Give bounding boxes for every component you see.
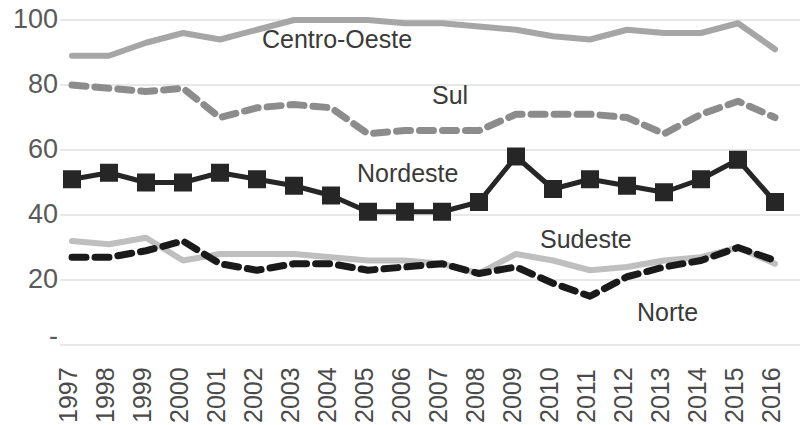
data-point-marker (766, 193, 784, 211)
series-sul (72, 85, 775, 134)
x-axis-tick-label: 2008 (463, 367, 488, 423)
data-point-marker (729, 151, 747, 169)
data-point-marker (396, 203, 414, 221)
x-axis-tick-label: 2000 (167, 367, 192, 423)
data-point-marker (433, 203, 451, 221)
data-point-marker (322, 187, 340, 205)
x-axis-tick-label: 2013 (648, 367, 673, 423)
data-point-marker (285, 177, 303, 195)
line-chart: -20406080100 199719981999200020012002200… (0, 0, 804, 425)
data-point-marker (100, 164, 118, 182)
y-axis-tick-label: 80 (28, 71, 58, 98)
y-axis-tick-label: 20 (28, 266, 58, 293)
x-axis-tick-label: 2003 (278, 367, 303, 423)
x-axis-tick-label: 2007 (426, 367, 451, 423)
data-point-marker (655, 183, 673, 201)
x-axis-tick-label: 1999 (130, 367, 155, 423)
data-point-marker (507, 148, 525, 166)
data-point-marker (63, 170, 81, 188)
x-axis-tick-label: 2001 (204, 367, 229, 423)
series-label-nordeste: Nordeste (357, 161, 458, 186)
x-axis-tick-label: 2006 (389, 367, 414, 423)
x-axis-tick-label: 2011 (574, 369, 599, 423)
y-axis-tick-label: - (49, 323, 58, 350)
series-label-sul: Sul (432, 83, 468, 108)
x-axis-labels: 1997199819992000200120022003200420052006… (0, 352, 804, 425)
data-point-marker (174, 174, 192, 192)
data-point-marker (359, 203, 377, 221)
series-norte (72, 241, 775, 296)
x-axis-tick-label: 2012 (611, 367, 636, 423)
data-point-marker (137, 174, 155, 192)
y-axis-tick-label: 60 (28, 136, 58, 163)
x-axis-tick-label: 2009 (500, 367, 525, 423)
y-axis-tick-label: 40 (28, 201, 58, 228)
series-line (72, 85, 775, 134)
x-axis-tick-label: 1997 (56, 367, 81, 423)
data-point-marker (692, 170, 710, 188)
data-point-marker (581, 170, 599, 188)
data-point-marker (211, 164, 229, 182)
x-axis-tick-label: 2015 (722, 367, 747, 423)
series-label-centro-oeste: Centro-Oeste (262, 27, 412, 52)
x-axis-tick-label: 2002 (241, 367, 266, 423)
data-point-marker (544, 180, 562, 198)
x-axis-tick-label: 2014 (685, 367, 710, 423)
x-axis-tick-label: 2005 (352, 367, 377, 423)
series-line (72, 241, 775, 296)
data-point-marker (618, 177, 636, 195)
series-line (72, 20, 775, 56)
x-axis-tick-label: 2010 (537, 367, 562, 423)
series-centro-oeste (72, 20, 775, 56)
x-axis-tick-label: 2004 (315, 367, 340, 423)
data-point-marker (470, 193, 488, 211)
series-label-norte: Norte (637, 300, 698, 325)
x-axis-tick-label: 2016 (759, 367, 784, 423)
x-axis-tick-label: 1998 (93, 367, 118, 423)
y-axis-tick-label: 100 (13, 6, 58, 33)
data-point-marker (248, 170, 266, 188)
series-label-sudeste: Sudeste (540, 227, 632, 252)
